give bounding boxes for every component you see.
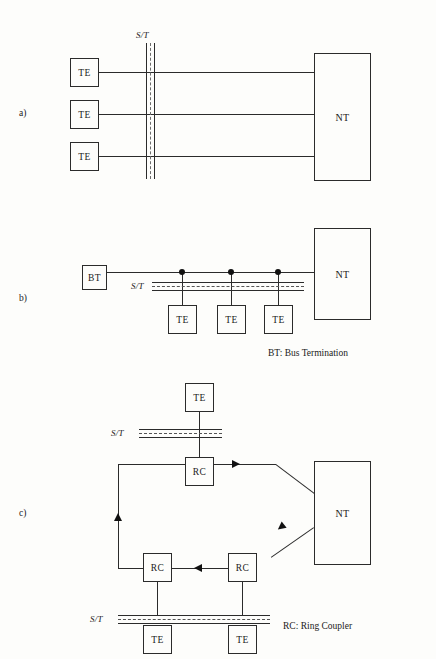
ring-segment bbox=[118, 464, 185, 465]
link-te-nt bbox=[99, 156, 315, 157]
te-box[interactable]: TE bbox=[70, 100, 99, 129]
legend-ring-coupler: RC: Ring Coupler bbox=[283, 621, 352, 631]
ring-direction-arrow bbox=[194, 564, 202, 572]
rc-box[interactable]: RC bbox=[228, 553, 257, 582]
st-reference-marker-b bbox=[152, 282, 304, 291]
nt-box[interactable]: NT bbox=[314, 461, 371, 565]
te-box[interactable]: TE bbox=[228, 625, 257, 654]
st-label-b: S/T bbox=[131, 281, 144, 291]
bus-junction-dot bbox=[228, 269, 234, 275]
bus-trunk bbox=[107, 272, 315, 273]
rc-drop bbox=[157, 582, 158, 615]
te-box[interactable]: TE bbox=[168, 305, 197, 334]
figure-canvas: a) S/T TE TE TE NT b) S/T BT TE TE TE NT… bbox=[0, 0, 436, 659]
te-box[interactable]: TE bbox=[143, 625, 172, 654]
te-box[interactable]: TE bbox=[70, 142, 99, 171]
rc-box[interactable]: RC bbox=[185, 457, 214, 486]
nt-box[interactable]: NT bbox=[314, 228, 371, 320]
ring-segment-from-nt bbox=[271, 527, 314, 558]
ring-segment bbox=[214, 464, 276, 465]
bt-box[interactable]: BT bbox=[82, 265, 107, 290]
st-reference-marker-a bbox=[146, 43, 155, 179]
panel-label-a: a) bbox=[19, 108, 26, 118]
st-reference-marker-c-bottom bbox=[118, 615, 270, 624]
rc-box[interactable]: RC bbox=[143, 553, 172, 582]
ring-direction-arrow bbox=[114, 513, 122, 521]
ring-direction-arrow bbox=[232, 460, 240, 468]
st-label-c-top: S/T bbox=[111, 428, 124, 438]
st-reference-marker-c-top bbox=[139, 429, 222, 438]
nt-box[interactable]: NT bbox=[314, 53, 371, 181]
rc-drop bbox=[242, 582, 243, 615]
st-label-c-bottom: S/T bbox=[90, 614, 103, 624]
bus-junction-dot bbox=[275, 269, 281, 275]
te-box[interactable]: TE bbox=[70, 58, 99, 87]
page-header-fragment bbox=[0, 1, 436, 7]
ring-segment bbox=[118, 568, 143, 569]
panel-label-c: c) bbox=[19, 508, 26, 518]
st-label-a: S/T bbox=[136, 30, 149, 40]
link-te-nt bbox=[99, 114, 315, 115]
te-box[interactable]: TE bbox=[185, 383, 214, 412]
te-box[interactable]: TE bbox=[217, 305, 246, 334]
link-te-nt bbox=[99, 72, 315, 73]
ring-segment-to-nt bbox=[275, 464, 315, 494]
bus-junction-dot bbox=[179, 269, 185, 275]
panel-label-b: b) bbox=[19, 293, 27, 303]
te-box[interactable]: TE bbox=[264, 305, 293, 334]
ring-direction-arrow bbox=[275, 521, 286, 532]
legend-bus-termination: BT: Bus Termination bbox=[268, 348, 348, 358]
